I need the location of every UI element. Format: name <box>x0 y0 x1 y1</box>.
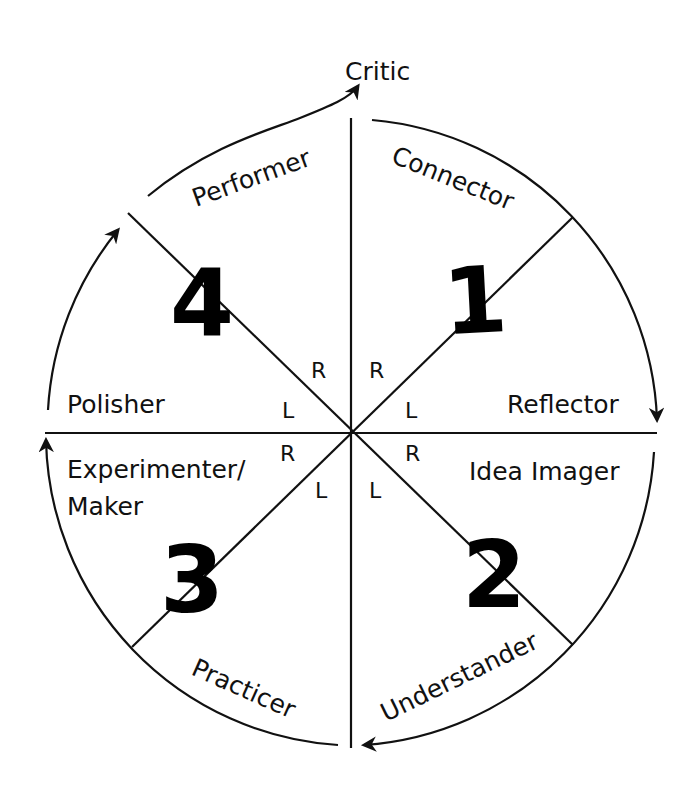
label-connector: Connector <box>388 141 519 216</box>
label-idea-imager: Idea Imager <box>469 457 620 486</box>
mark-se-upper: R <box>405 441 420 466</box>
label-critic: Critic <box>345 57 410 86</box>
mark-se-lower: L <box>369 478 382 503</box>
label-reflector: Reflector <box>507 390 620 419</box>
label-performer: Performer <box>188 143 315 213</box>
label-understander: Understander <box>376 626 543 727</box>
mark-nw-upper: R <box>311 358 326 383</box>
mark-sw-lower: L <box>315 478 328 503</box>
quadrant-number-3: 3 <box>160 527 224 634</box>
mark-sw-upper: R <box>280 441 295 466</box>
mark-ne-lower: L <box>405 398 418 423</box>
arc-polisher-to-performer <box>48 230 118 410</box>
quadrant-number-4: 4 <box>170 250 234 357</box>
label-maker: Maker <box>67 492 144 521</box>
label-practicer: Practicer <box>188 653 301 725</box>
mark-ne-upper: R <box>369 358 384 383</box>
quadrant-number-1: 1 <box>440 246 510 356</box>
label-polisher: Polisher <box>67 390 166 419</box>
mark-nw-lower: L <box>282 398 295 423</box>
learning-cycle-diagram: Critic Performer Connector Reflector Ide… <box>0 0 694 787</box>
label-experimenter: Experimenter/ <box>67 455 246 484</box>
quadrant-number-2: 2 <box>462 522 526 629</box>
